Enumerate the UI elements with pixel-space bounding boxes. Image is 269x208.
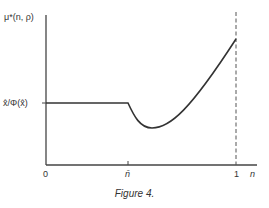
x-axis-label: n — [250, 170, 255, 179]
mu-curve — [46, 39, 236, 128]
chart-canvas — [0, 0, 269, 208]
figure-caption: Figure 4. — [0, 188, 269, 199]
x-tick-label-nbar: n̄ — [125, 170, 130, 179]
x-tick-label-0: 0 — [43, 170, 48, 179]
y-axis-label: μ*(n, ρ) — [4, 13, 34, 22]
x-tick-label-1: 1 — [234, 170, 239, 179]
y-tick-label: x̂/Φ(x̂) — [3, 99, 28, 108]
